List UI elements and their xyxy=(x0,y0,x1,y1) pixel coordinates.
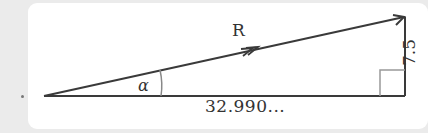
height-length-label: 7.5 xyxy=(401,39,418,66)
angle-arc xyxy=(160,70,162,96)
vector-label: R xyxy=(232,22,245,39)
right-angle-marker xyxy=(380,70,405,96)
angle-label: α xyxy=(138,78,149,94)
vector-r-line xyxy=(44,17,404,96)
base-length-label: 32.990... xyxy=(205,98,285,115)
